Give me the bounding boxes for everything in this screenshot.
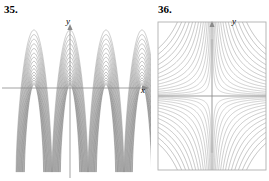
figure-36-plot — [152, 0, 269, 181]
x-axis-label-35: x — [141, 86, 145, 95]
panel-divider — [151, 0, 152, 181]
y-axis-label-35: y — [66, 17, 70, 26]
figure-panel-36: 36. y — [152, 0, 269, 181]
figure-35-plot — [0, 0, 152, 181]
figure-panel-35: 35. y x — [0, 0, 152, 181]
y-axis-label-36: y — [232, 17, 236, 26]
